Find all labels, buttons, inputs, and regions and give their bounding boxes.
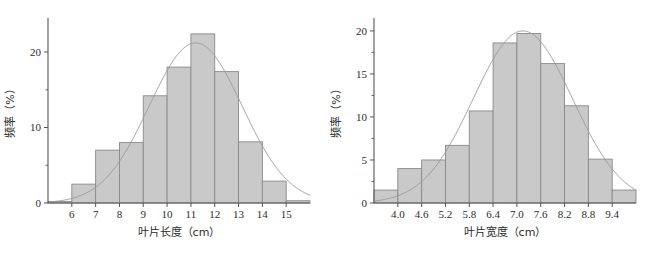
y-tick-label: 20 xyxy=(30,46,42,58)
y-tick-label: 0 xyxy=(362,197,368,209)
x-tick-label: 8.8 xyxy=(581,208,595,220)
panel-leaf-width: 4.04.65.25.86.47.07.68.28.89.405101520叶片… xyxy=(324,0,648,255)
histogram-bar xyxy=(493,43,517,203)
histogram-bar xyxy=(541,64,565,203)
x-tick-label: 10 xyxy=(162,208,174,220)
x-tick-label: 5.8 xyxy=(462,208,476,220)
y-axis-title: 频率（%） xyxy=(329,83,343,137)
x-axis-title: 叶片宽度（cm） xyxy=(464,225,547,239)
histogram-bar xyxy=(191,34,215,203)
histogram-bar xyxy=(469,111,493,203)
histogram-bar xyxy=(239,142,263,203)
x-tick-label: 11 xyxy=(186,208,197,220)
x-axis-ticks: 4.04.65.25.86.47.07.68.28.89.4 xyxy=(391,203,620,220)
x-tick-label: 6 xyxy=(69,208,75,220)
x-tick-label: 4.0 xyxy=(391,208,405,220)
histogram-bar xyxy=(422,160,446,203)
x-tick-label: 9.4 xyxy=(605,208,619,220)
x-tick-label: 6.4 xyxy=(486,208,500,220)
y-axis-ticks: 05101520 xyxy=(356,25,374,209)
y-axis-ticks: 01020 xyxy=(30,46,48,209)
y-axis-title: 频率（%） xyxy=(3,83,17,137)
histogram-bar xyxy=(517,33,541,203)
y-tick-label: 20 xyxy=(356,25,368,37)
histogram-bar xyxy=(612,190,636,203)
x-tick-label: 7 xyxy=(93,208,99,220)
histogram-bar xyxy=(565,106,589,203)
y-tick-label: 10 xyxy=(356,111,368,123)
bars-group xyxy=(48,34,310,203)
x-tick-label: 13 xyxy=(233,208,245,220)
y-tick-label: 0 xyxy=(36,197,42,209)
y-tick-label: 15 xyxy=(356,68,368,80)
x-tick-label: 12 xyxy=(209,208,220,220)
bars-group xyxy=(374,33,636,203)
x-tick-label: 5.2 xyxy=(439,208,453,220)
x-tick-label: 15 xyxy=(281,208,293,220)
y-tick-label: 5 xyxy=(362,154,368,166)
x-tick-label: 9 xyxy=(141,208,147,220)
x-axis-title: 叶片长度（cm） xyxy=(138,225,221,239)
leaf-width-chart: 4.04.65.25.86.47.07.68.28.89.405101520叶片… xyxy=(324,0,648,255)
histogram-bar xyxy=(588,159,612,203)
x-tick-label: 7.0 xyxy=(510,208,524,220)
x-tick-label: 14 xyxy=(257,208,269,220)
leaf-length-chart: 678910111213141501020叶片长度（cm）频率（%） xyxy=(0,0,324,255)
y-tick-label: 10 xyxy=(30,121,42,133)
x-tick-label: 8 xyxy=(117,208,123,220)
x-tick-label: 8.2 xyxy=(558,208,572,220)
x-tick-label: 7.6 xyxy=(534,208,548,220)
x-axis-ticks: 6789101112131415 xyxy=(69,203,292,220)
histogram-bar xyxy=(445,145,469,203)
histogram-figure: 678910111213141501020叶片长度（cm）频率（%） 4.04.… xyxy=(0,0,648,255)
histogram-bar xyxy=(262,181,286,203)
histogram-bar xyxy=(398,169,422,203)
histogram-bar xyxy=(167,67,191,203)
histogram-bar xyxy=(72,184,96,203)
histogram-bar xyxy=(119,143,143,203)
panel-leaf-length: 678910111213141501020叶片长度（cm）频率（%） xyxy=(0,0,324,255)
x-tick-label: 4.6 xyxy=(415,208,429,220)
